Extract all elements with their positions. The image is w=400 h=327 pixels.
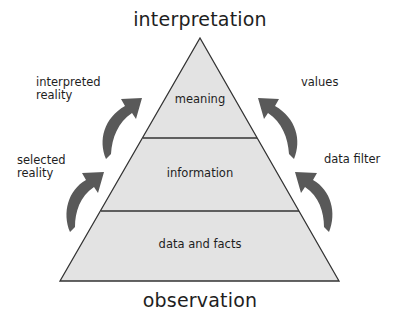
annotation-interpreted-reality: interpreted reality <box>36 76 101 102</box>
annotation-selected-reality: selected reality <box>17 154 66 180</box>
top-label: interpretation <box>0 8 400 30</box>
bottom-label: observation <box>0 289 400 311</box>
annotation-line: reality <box>36 89 101 102</box>
level-label-information: information <box>130 166 270 180</box>
annotation-data-filter: data filter <box>324 153 380 166</box>
level-label-meaning: meaning <box>150 92 250 106</box>
annotation-line: data filter <box>324 153 380 166</box>
annotation-line: reality <box>17 167 66 180</box>
level-label-data-and-facts: data and facts <box>120 237 280 251</box>
annotation-line: values <box>301 76 338 89</box>
annotation-values: values <box>301 76 338 89</box>
